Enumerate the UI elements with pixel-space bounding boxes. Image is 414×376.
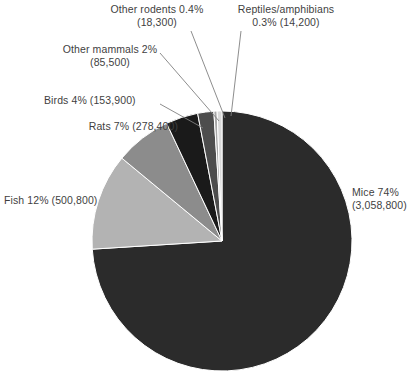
pie-label-reptiles-line1: Reptiles/amphibians [216,3,356,16]
pie-label-mice: Mice 74% (3,058,800) [352,186,412,212]
leader-line-other-rodents [191,31,225,118]
pie-label-other-rodents-line1: Other rodents 0.4% [94,3,220,16]
pie-label-mice-line2: (3,058,800) [352,199,412,212]
pie-label-reptiles-line2: 0.3% (14,200) [216,16,356,29]
leader-line-reptiles [231,31,241,116]
pie-label-rats: Rats 7% (278,400) [44,120,178,133]
pie-label-other-rodents-line2: (18,300) [94,16,220,29]
pie-label-birds: Birds 4% (153,900) [44,94,178,107]
pie-label-other-mammals-line1: Other mammals 2% [42,43,178,56]
pie-label-fish: Fish 12% (500,800) [4,194,144,207]
pie-label-mice-line1: Mice 74% [352,186,412,199]
pie-slice-group [92,111,352,371]
pie-label-other-rodents: Other rodents 0.4% (18,300) [94,3,220,29]
pie-chart-figure: Other rodents 0.4% (18,300) Reptiles/amp… [0,0,414,376]
pie-label-other-mammals-line2: (85,500) [42,56,178,69]
pie-label-other-mammals: Other mammals 2% (85,500) [42,43,178,69]
pie-label-reptiles-amphibians: Reptiles/amphibians 0.3% (14,200) [216,3,356,29]
